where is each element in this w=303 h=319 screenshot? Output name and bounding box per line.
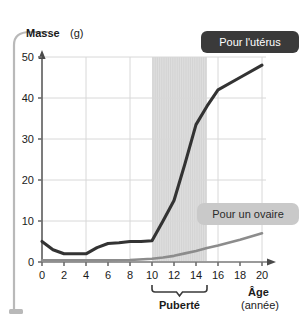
- x-tick-label: 6: [105, 269, 111, 281]
- x-tick-label: 0: [39, 269, 45, 281]
- y-tick-label: 20: [22, 174, 34, 186]
- y-axis-title: Masse: [26, 27, 60, 39]
- legend-uterus-label: Pour l'utérus: [219, 36, 281, 48]
- x-tick-label: 12: [168, 269, 180, 281]
- legend-ovary[interactable]: Pour un ovaire: [197, 203, 299, 225]
- x-tick-label: 4: [83, 269, 89, 281]
- chart-figure: 01020304050 02468101214161820 Masse (g) …: [0, 0, 303, 319]
- y-tick-label: 0: [28, 256, 34, 268]
- x-tick-label: 8: [127, 269, 133, 281]
- x-tick-label: 18: [234, 269, 246, 281]
- x-tick-label: 16: [212, 269, 224, 281]
- x-tick-label: 10: [146, 269, 158, 281]
- puberty-band-label: Puberté: [159, 299, 200, 311]
- x-axis-unit: (année): [241, 299, 279, 311]
- y-tick-label: 40: [22, 92, 34, 104]
- x-axis-title: Âge: [248, 286, 269, 298]
- x-axis-arrow: [267, 258, 276, 265]
- puberty-bracket: [152, 285, 207, 296]
- y-tick-label: 30: [22, 133, 34, 145]
- gridlines-vertical: [86, 57, 262, 262]
- y-tick-label: 50: [22, 51, 34, 63]
- x-tick-label: 2: [61, 269, 67, 281]
- y-axis-unit: (g): [70, 27, 83, 39]
- y-axis-tick-labels: 01020304050: [22, 51, 34, 268]
- y-tick-label: 10: [22, 215, 34, 227]
- chart-svg: 01020304050 02468101214161820 Masse (g) …: [0, 0, 303, 319]
- legend-uterus[interactable]: Pour l'utérus: [201, 31, 299, 53]
- decorative-frame-foot: [9, 309, 23, 314]
- x-tick-label: 20: [256, 269, 268, 281]
- x-tick-label: 14: [190, 269, 202, 281]
- x-axis-tick-labels: 02468101214161820: [39, 269, 268, 281]
- legend-ovary-label: Pour un ovaire: [212, 208, 284, 220]
